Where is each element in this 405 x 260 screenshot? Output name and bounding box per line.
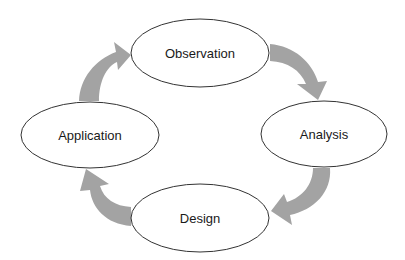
arrow-analysis-to-design	[271, 168, 330, 225]
application-label: Application	[58, 128, 122, 143]
node-design: Design	[131, 184, 269, 252]
arrow-design-to-application	[80, 169, 131, 226]
node-application: Application	[21, 102, 159, 168]
analysis-label: Analysis	[300, 127, 349, 142]
design-label: Design	[180, 211, 220, 226]
arrow-observation-to-analysis	[270, 44, 327, 100]
observation-label: Observation	[165, 46, 235, 61]
arrow-application-to-observation	[79, 42, 131, 101]
node-observation: Observation	[131, 19, 269, 87]
cycle-diagram: Observation Analysis Design Application	[0, 0, 405, 260]
node-analysis: Analysis	[261, 101, 387, 167]
